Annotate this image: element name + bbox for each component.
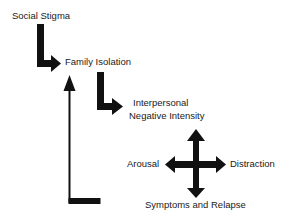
feedback-arrow-to-isolation: [64, 75, 101, 204]
node-interpersonal-line1: Interpersonal: [133, 97, 188, 109]
node-social-stigma: Social Stigma: [12, 10, 70, 22]
elbow-arrow-stigma-to-isolation: [37, 24, 61, 72]
node-distraction: Distraction: [230, 158, 275, 170]
node-arousal: Arousal: [127, 158, 159, 170]
node-interpersonal-line2: Negative Intensity: [129, 110, 205, 122]
four-way-cross-arrow: [165, 129, 226, 198]
node-symptoms-relapse: Symptoms and Relapse: [145, 199, 246, 211]
elbow-arrow-isolation-to-interpersonal: [97, 72, 123, 115]
node-family-isolation: Family Isolation: [65, 56, 131, 68]
